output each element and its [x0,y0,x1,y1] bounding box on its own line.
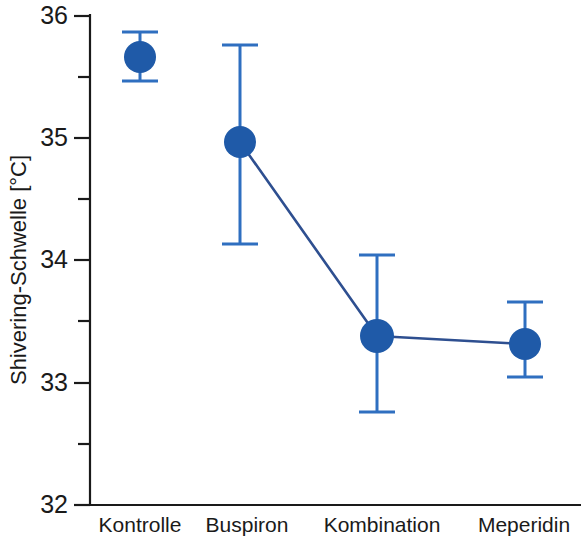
y-tick-label-32: 32 [40,490,68,518]
x-category-label-kombination: Kombination [324,513,441,536]
datapoint-marker-meperidin [509,328,541,360]
y-axis-label: Shivering-Schwelle [°C] [6,155,31,385]
chart-background [0,0,581,538]
datapoint-marker-kombination [360,319,394,353]
datapoint-marker-buspiron [224,126,256,158]
datapoint-marker-kontrolle [124,41,156,73]
shivering-threshold-chart: 36 35 34 33 32 Shivering-Schwelle [°C] [0,0,581,538]
x-category-label-meperidin: Meperidin [478,513,570,536]
y-tick-label-35: 35 [40,123,68,151]
y-tick-label-33: 33 [40,368,68,396]
chart-container: 36 35 34 33 32 Shivering-Schwelle [°C] [0,0,581,538]
x-category-label-kontrolle: Kontrolle [99,513,182,536]
y-tick-label-34: 34 [40,245,68,273]
y-tick-label-36: 36 [40,1,68,29]
x-category-label-buspiron: Buspiron [206,513,289,536]
